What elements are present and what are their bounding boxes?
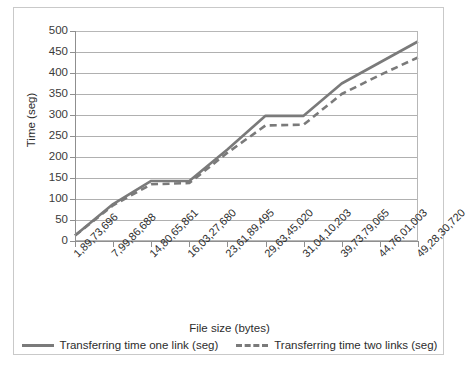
- y-axis-title: Time (seg): [25, 75, 37, 165]
- y-axis-tick-label: 50: [22, 214, 68, 225]
- y-axis-tick-label: 450: [22, 46, 68, 57]
- y-axis-tick-label: 100: [22, 193, 68, 204]
- y-axis-tick-label: 150: [22, 172, 68, 183]
- series-lines: [75, 31, 418, 241]
- chart-frame: 050100150200250300350400450500 Time (seg…: [13, 7, 444, 355]
- y-axis-line: [75, 31, 76, 242]
- solid-line-icon: [22, 344, 54, 347]
- legend-item[interactable]: Transferring time two links (seg): [236, 339, 437, 351]
- series-line: [75, 42, 418, 236]
- legend-label: Transferring time one link (seg): [60, 339, 219, 351]
- series-line: [75, 57, 418, 235]
- plot-area: [75, 31, 418, 241]
- y-axis-tick-label: 500: [22, 25, 68, 36]
- y-axis-tick-labels: 050100150200250300350400450500: [20, 8, 68, 354]
- chart-legend: Transferring time one link (seg)Transfer…: [14, 339, 445, 351]
- x-axis-title: File size (bytes): [14, 322, 445, 334]
- legend-label: Transferring time two links (seg): [274, 339, 437, 351]
- y-axis-tick-label: 0: [22, 235, 68, 246]
- dashed-line-icon: [236, 344, 268, 347]
- legend-item[interactable]: Transferring time one link (seg): [22, 339, 219, 351]
